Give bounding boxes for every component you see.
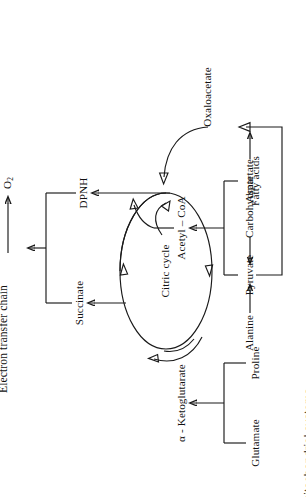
acetyl-curl (156, 203, 166, 235)
node-aspartate: Aspartate (244, 159, 256, 203)
node-pyruvate: Pyruvate (244, 254, 256, 295)
diagram-stage: Citric cycle Electron transfer chain O2 … (0, 9, 256, 489)
node-electron-transfer-chain: Electron transfer chain (0, 285, 10, 393)
cycle-arc-bottom (166, 193, 212, 349)
cycle-arrow-top (120, 264, 127, 275)
figure-rotor: Citric cycle Electron transfer chain O2 … (0, 9, 256, 489)
node-alanine: Alanine (244, 314, 256, 350)
node-succinate: Succinate (74, 280, 86, 324)
acetyl-curl-arrow (162, 201, 171, 211)
figure-caption-text: Interrelationships of mitochondrial syst… (302, 385, 306, 497)
node-ketoglutarate: α - Ketoglutarate (176, 364, 188, 442)
node-dpnh: DPNH (78, 177, 90, 208)
diagram-wires (0, 9, 256, 489)
figure-caption: Fig. II.3. Interrelationships of mitocho… (302, 385, 306, 497)
figure-page: Citric cycle Electron transfer chain O2 … (0, 0, 306, 497)
node-oxygen: O2 (2, 177, 14, 189)
node-acetyl-coa: Acetyl – CoA (176, 196, 188, 259)
oxaloacetate-curve (164, 127, 208, 177)
node-glutamate: Glutamate (250, 419, 262, 467)
node-oxaloacetate: Oxaloacetate (202, 67, 214, 127)
node-citric-cycle: Citric cycle (160, 244, 172, 297)
